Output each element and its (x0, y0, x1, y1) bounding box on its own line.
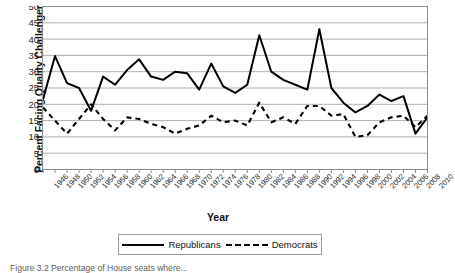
legend-label-republicans: Republicans (168, 239, 220, 250)
y-tick-labels: 05101520253035404550 (28, 6, 39, 175)
figure-caption: Figure 3.2 Percentage of House seats whe… (10, 263, 188, 273)
y-tick-label: 20 (28, 99, 39, 110)
y-tick-label: 5 (34, 148, 39, 159)
plot-area: 05101520253035404550 (18, 6, 428, 176)
legend-swatch-solid-line (122, 244, 164, 246)
x-axis-tick-labels: 1946194819501952195419561958196019621964… (18, 172, 428, 212)
y-tick-label: 40 (28, 34, 39, 45)
x-axis-title: Year (0, 211, 436, 223)
y-tick-label: 10 (28, 131, 39, 142)
legend-label-democrats: Democrats (272, 239, 318, 250)
y-tick-label: 30 (28, 66, 39, 77)
legend-entry-democrats: Democrats (226, 239, 318, 250)
y-tick-label: 15 (28, 115, 39, 126)
series-line-democrats (43, 103, 428, 137)
y-tick-label: 45 (28, 17, 39, 28)
series-line-republicans (43, 29, 428, 133)
y-tick-label: 50 (28, 6, 39, 12)
legend-swatch-dashed-line (226, 244, 268, 246)
gridlines (43, 7, 428, 170)
chart-legend: Republicans Democrats (118, 234, 322, 255)
line-chart-svg: 05101520253035404550 (18, 6, 428, 176)
legend-entry-republicans: Republicans (122, 239, 220, 250)
y-tick-label: 25 (28, 82, 39, 93)
y-tick-label: 35 (28, 50, 39, 61)
